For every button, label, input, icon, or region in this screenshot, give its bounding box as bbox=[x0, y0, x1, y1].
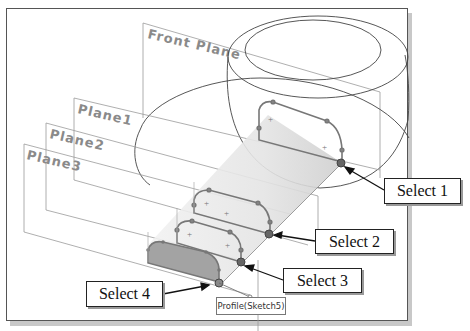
select-point-1[interactable] bbox=[337, 159, 345, 167]
profile-tag: Profile(Sketch5) bbox=[216, 297, 286, 315]
svg-text:+: + bbox=[204, 198, 209, 208]
callout-select-3: Select 3 bbox=[283, 268, 362, 293]
plane2-label: Plane2 bbox=[48, 126, 106, 153]
svg-text:+: + bbox=[224, 208, 229, 218]
select-point-3[interactable] bbox=[237, 258, 245, 266]
callout-select-1: Select 1 bbox=[384, 178, 461, 204]
select-point-2[interactable] bbox=[265, 230, 273, 238]
callout-select-4: Select 4 bbox=[86, 281, 163, 307]
svg-text:+: + bbox=[187, 229, 192, 239]
plane3-label: Plane3 bbox=[25, 147, 83, 174]
svg-text:+: + bbox=[322, 142, 327, 152]
svg-text:+: + bbox=[225, 240, 230, 250]
svg-text:+: + bbox=[268, 114, 273, 124]
cad-scene[interactable]: Front Plane Plane1 Plane2 Plane3 + bbox=[0, 0, 470, 331]
callout-select-2: Select 2 bbox=[315, 229, 394, 254]
